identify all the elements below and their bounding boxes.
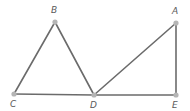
point-c bbox=[11, 91, 16, 96]
point-a bbox=[173, 20, 178, 25]
point-b bbox=[52, 19, 57, 24]
label-a: A bbox=[171, 6, 178, 16]
label-c: C bbox=[10, 99, 17, 109]
segment-bc bbox=[14, 22, 55, 94]
label-b: B bbox=[51, 5, 57, 15]
segment-bd bbox=[55, 22, 94, 95]
segment-da bbox=[94, 23, 176, 95]
label-e: E bbox=[172, 100, 178, 110]
point-e bbox=[173, 92, 178, 97]
geometry-diagram: A B C D E bbox=[0, 0, 190, 111]
label-d: D bbox=[90, 100, 97, 110]
segment-cd bbox=[14, 94, 94, 95]
point-d bbox=[91, 92, 96, 97]
